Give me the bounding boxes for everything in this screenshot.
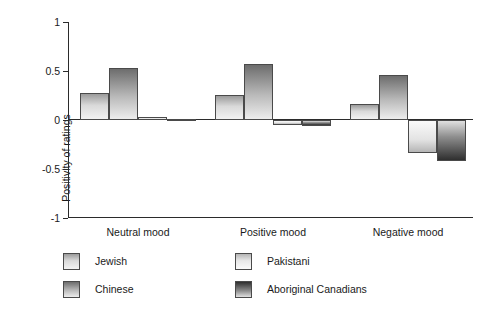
x-axis-label-1: Positive mood xyxy=(240,226,306,238)
legend-swatch-icon xyxy=(235,253,252,270)
bar[interactable] xyxy=(167,119,196,121)
plot-area: 10.50-0.5-1 xyxy=(68,22,473,218)
bar[interactable] xyxy=(302,120,331,126)
y-tick-label: 0.5 xyxy=(45,66,60,77)
y-tick-mark xyxy=(63,218,68,219)
bar[interactable] xyxy=(138,117,167,120)
bar[interactable] xyxy=(437,120,466,161)
bar[interactable] xyxy=(273,120,302,125)
legend-label: Aboriginal Canadians xyxy=(267,283,367,295)
bar[interactable] xyxy=(109,68,138,120)
y-tick-label: -1 xyxy=(51,213,60,224)
y-tick-mark xyxy=(63,71,68,72)
legend-label: Chinese xyxy=(95,283,134,295)
bar[interactable] xyxy=(244,64,273,120)
legend-swatch-icon xyxy=(63,281,80,298)
y-axis-line xyxy=(68,22,69,218)
bar-group xyxy=(350,22,466,218)
y-tick-mark xyxy=(63,120,68,121)
x-axis-label-0: Neutral mood xyxy=(106,226,169,238)
bar[interactable] xyxy=(379,75,408,120)
y-tick-mark xyxy=(63,169,68,170)
bar-group xyxy=(215,22,331,218)
legend-swatch-icon xyxy=(63,253,80,270)
bar[interactable] xyxy=(408,120,437,153)
bar[interactable] xyxy=(215,95,244,120)
y-tick-label: -0.5 xyxy=(42,164,60,175)
bar[interactable] xyxy=(350,104,379,120)
y-tick-mark xyxy=(63,22,68,23)
legend-item[interactable]: Pakistani xyxy=(235,252,310,270)
bar[interactable] xyxy=(80,93,109,120)
bar-chart-figure: Positivity of ratings 10.50-0.5-1 Neutra… xyxy=(0,0,499,315)
legend-label: Pakistani xyxy=(267,255,310,267)
legend-label: Jewish xyxy=(95,255,127,267)
x-axis-label-2: Negative mood xyxy=(373,226,444,238)
y-tick-label: 1 xyxy=(54,17,60,28)
legend-item[interactable]: Chinese xyxy=(63,280,134,298)
chart-legend: JewishChinesePakistaniAboriginal Canadia… xyxy=(63,252,443,304)
bar-group xyxy=(80,22,196,218)
legend-item[interactable]: Aboriginal Canadians xyxy=(235,280,367,298)
y-tick-label: 0 xyxy=(54,115,60,126)
legend-item[interactable]: Jewish xyxy=(63,252,127,270)
legend-swatch-icon xyxy=(235,281,252,298)
